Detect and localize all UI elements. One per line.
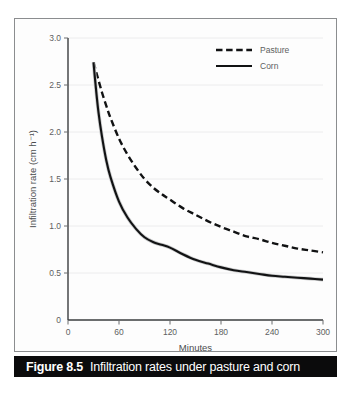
series-line-shadow (94, 62, 324, 279)
x-axis-title: Minutes (179, 342, 213, 352)
x-tick-label: 300 (316, 327, 330, 337)
y-tick-label: 3.0 (49, 33, 61, 43)
y-tick-label: 2.5 (49, 80, 61, 90)
chart-legend: PastureCorn (216, 45, 290, 71)
y-axis-tick-labels: 00.51.01.52.02.53.0 (49, 33, 68, 325)
y-tick-label: 2.0 (49, 127, 61, 137)
figure-caption-bar: Figure 8.5 Infiltration rates under past… (14, 356, 337, 377)
x-tick-label: 60 (114, 327, 124, 337)
y-tick-label: 1.5 (49, 174, 61, 184)
x-axis-tick-labels: 060120180240300 (66, 327, 331, 337)
x-tick-label: 180 (214, 327, 228, 337)
infiltration-rate-chart: 00.51.01.52.02.53.0 060120180240300 Past… (14, 18, 337, 352)
y-tick-label: 0.5 (49, 268, 61, 278)
x-tick-label: 240 (265, 327, 279, 337)
x-tick-label: 0 (66, 327, 71, 337)
series-line-corn (94, 62, 324, 279)
y-tick-label: 1.0 (49, 221, 61, 231)
series-line-pasture (94, 62, 324, 252)
legend-label-corn: Corn (260, 61, 279, 71)
x-tick-label: 120 (163, 327, 177, 337)
y-axis-title: Infiltration rate (cm h⁻¹) (27, 130, 38, 228)
figure-caption-number: Figure 8.5 (14, 360, 83, 374)
chart-series (94, 62, 324, 279)
figure-page: 00.51.01.52.02.53.0 060120180240300 Past… (0, 0, 351, 398)
y-tick-label: 0 (56, 315, 61, 325)
figure-caption-text: Infiltration rates under pasture and cor… (83, 360, 300, 374)
legend-label-pasture: Pasture (260, 45, 290, 55)
